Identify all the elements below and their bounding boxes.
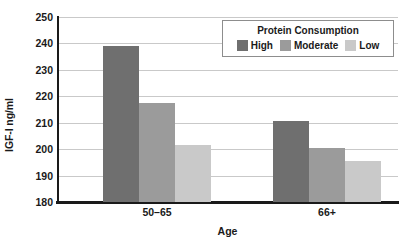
legend-swatch-icon [280,40,291,51]
x-tick-label: 50–65 [103,206,211,218]
legend-swatch-icon [237,40,248,51]
legend: Protein Consumption HighModerateLow [222,20,394,57]
y-tick-label: 190 [27,171,53,182]
bar [175,145,211,202]
legend-swatch-icon [345,40,356,51]
legend-item-label: High [251,40,273,51]
bar [139,103,175,202]
y-tick-label: 210 [27,118,53,129]
x-axis-title: Age [57,225,398,237]
legend-item: Moderate [280,40,338,51]
y-axis-tick-labels: 250240230220210200190180 [22,0,53,250]
legend-title: Protein Consumption [229,25,387,37]
bar-chart-figure: IGF-I ng/ml 250240230220210200190180 50–… [0,0,409,250]
legend-item-label: Moderate [294,40,338,51]
legend-item-label: Low [359,40,379,51]
y-tick-label: 200 [27,144,53,155]
bar [345,161,381,202]
y-tick-label: 180 [27,197,53,208]
bar [273,121,309,202]
legend-items: HighModerateLow [229,40,387,51]
bar [103,46,139,202]
y-tick-label: 240 [27,38,53,49]
legend-item: High [237,40,273,51]
y-tick-label: 250 [27,12,53,23]
y-tick-label: 220 [27,91,53,102]
x-tick-label: 66+ [273,206,381,218]
y-axis-title: IGF-I ng/ml [0,60,18,190]
legend-item: Low [345,40,379,51]
y-tick-label: 230 [27,65,53,76]
bar [309,148,345,202]
